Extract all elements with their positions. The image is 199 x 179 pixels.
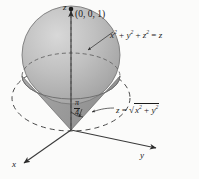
apex-point-marker <box>69 7 74 12</box>
figure-graphic <box>0 0 199 179</box>
angle-label: π 4 <box>74 99 80 118</box>
angle-denominator: 4 <box>74 109 80 117</box>
cone-label-leader <box>92 108 114 112</box>
sqrt-icon: √x2 + y2 <box>129 103 159 115</box>
cone-equation-label: z = √x2 + y2 <box>116 103 159 115</box>
angle-numerator: π <box>74 99 80 107</box>
cone-eq-plus: + <box>142 105 152 115</box>
x-axis-label: x <box>12 160 16 169</box>
sphere-eq-plus2: + <box>133 30 143 40</box>
sphere-eq-equals: = <box>149 30 159 40</box>
cone-eq-y-exp: 2 <box>155 104 158 110</box>
figure-container: (0, 0, 1) z y x x2 + y2 + z2 = z z = √x2… <box>0 0 199 179</box>
sphere-equation-label: x2 + y2 + z2 = z <box>110 30 162 40</box>
sphere-eq-plus1: + <box>117 30 127 40</box>
x-axis <box>24 130 71 163</box>
y-axis-label: y <box>140 151 144 160</box>
apex-point-label: (0, 0, 1) <box>75 10 105 20</box>
cone-eq-equals: = <box>120 105 130 115</box>
angle-fraction: π 4 <box>74 99 80 118</box>
sphere-eq-rhs: z <box>159 30 163 40</box>
z-axis-label: z <box>63 3 67 12</box>
y-axis <box>71 130 156 148</box>
